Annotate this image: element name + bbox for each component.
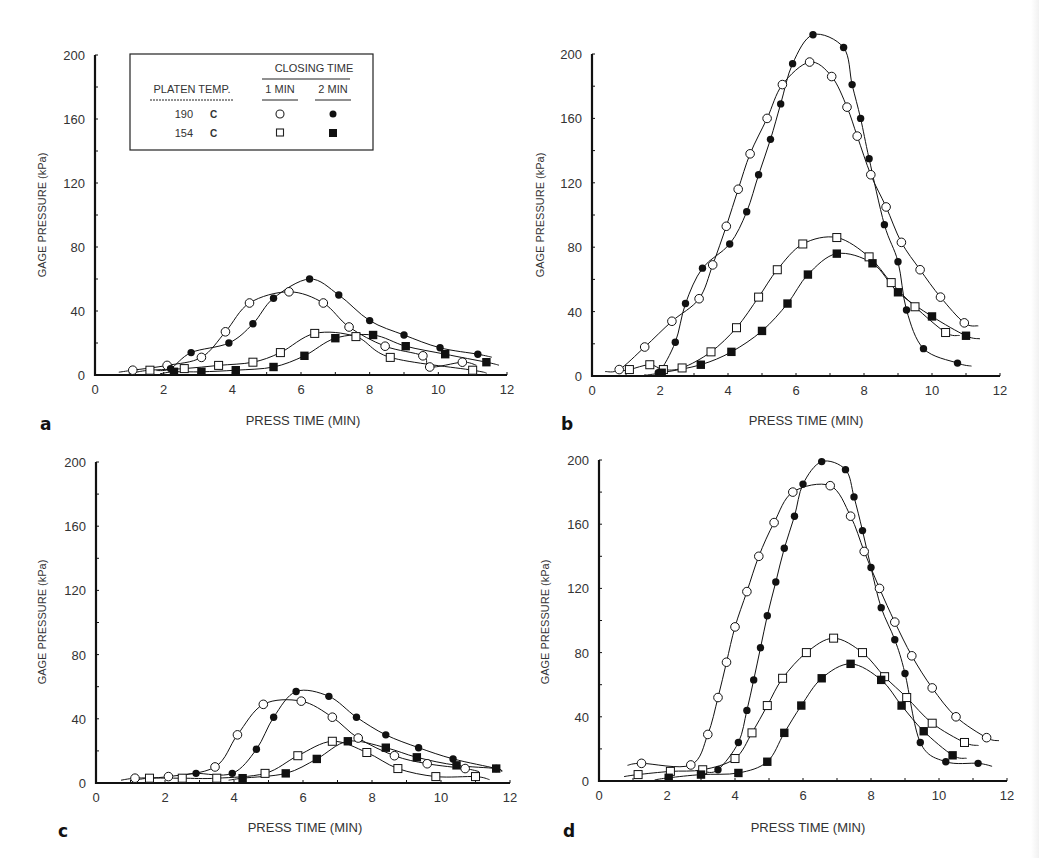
filled-circle-icon [253,746,260,753]
open-circle-icon [734,185,743,194]
filled-circle-icon [187,349,194,356]
x-tick-label: 4 [230,790,237,805]
open-square-icon [748,729,756,737]
open-circle-icon [328,713,337,722]
x-tick-label: 2 [656,383,663,398]
panel-c-axes: 02468101204080120160200 [64,455,517,805]
open-circle-icon [826,481,835,490]
y-tick-label: 0 [79,776,86,791]
x-tick-label: 12 [993,383,1007,398]
open-square-icon [472,773,480,781]
x-tick-label: 8 [366,382,373,397]
legend-row-190-unit: C [210,109,217,120]
open-circle-icon [695,294,704,303]
open-square-icon [178,774,186,782]
x-tick-label: 6 [297,382,304,397]
open-circle-icon [458,358,467,367]
open-square-icon [961,738,969,746]
open-square-icon [733,324,741,332]
x-tick-label: 12 [503,790,517,805]
filled-circle-icon [682,300,689,307]
filled-square-icon [369,331,377,339]
open-circle-icon [211,763,220,772]
filled-circle-icon [840,44,847,51]
open-square-icon [469,366,477,374]
filled-circle-icon [942,758,949,765]
open-circle-icon [297,697,306,706]
open-circle-icon [846,512,855,521]
open-square-icon [261,769,269,777]
x-tick-label: 6 [799,788,806,803]
filled-circle-icon [881,221,888,228]
filled-circle-icon [917,739,924,746]
open-circle-icon [285,288,294,297]
open-square-icon [707,348,715,356]
filled-circle-icon [743,208,750,215]
y-tick-label: 120 [567,581,589,596]
filled-circle-icon [894,258,901,265]
filled-square-icon [697,361,705,369]
panel-c-y-axis-label: GAGE PRESSURE (kPa) [36,560,48,685]
filled-square-icon [897,701,905,709]
open-square-icon [146,366,154,374]
filled-circle-icon [699,264,706,271]
filled-circle-icon [842,466,849,473]
filled-square-icon [797,701,805,709]
legend-row-154-temp: 154 [175,127,193,139]
open-circle-icon [259,700,268,709]
filled-square-icon [727,348,735,356]
open-square-icon [352,333,360,341]
filled-circle-icon [764,612,771,619]
y-tick-label: 80 [575,646,589,661]
filled-square-icon [482,358,490,366]
open-circle-icon [615,365,624,374]
open-circle-icon [882,203,891,212]
panel-d: 02468101204080120160200 GAGE PRESSURE (k… [539,453,1014,841]
filled-circle-icon [857,115,864,122]
y-tick-label: 40 [575,710,589,725]
fitted-curve-open-circle [605,62,978,372]
panel-a-x-axis-label: PRESS TIME (MIN) [246,413,361,428]
fitted-curve-open-circle [628,484,1000,767]
scan-edge-strip [1031,0,1039,858]
x-tick-label: 10 [434,790,448,805]
open-circle-icon [722,658,731,667]
open-circle-icon [233,731,242,740]
x-tick-label: 4 [229,382,236,397]
x-tick-label: 4 [731,788,738,803]
panel-d-markers [634,458,991,782]
open-square-icon [887,279,895,287]
open-square-icon [859,649,867,657]
open-square-icon [903,694,911,702]
open-square-icon [928,719,936,727]
open-circle-icon [952,713,961,722]
filled-square-icon [402,342,410,350]
x-tick-label: 2 [160,382,167,397]
panel-a-letter: a [40,414,51,434]
open-square-icon [911,303,919,311]
filled-circle-icon [755,171,762,178]
open-square-icon [328,737,336,745]
open-circle-icon [390,751,399,760]
open-circle-icon [354,734,363,743]
panel-a-markers [128,275,490,376]
filled-square-icon [665,774,673,782]
open-circle-icon [423,759,432,768]
filled-square-icon [846,660,854,668]
panel-b-axes: 02468101204080120160200 [560,47,1007,398]
filled-square-icon [329,129,337,137]
open-circle-icon [640,343,649,352]
filled-circle-icon [325,693,332,700]
filled-square-icon [441,350,449,358]
x-tick-label: 2 [663,788,670,803]
open-circle-icon [276,110,284,118]
y-tick-label: 160 [567,517,589,532]
filled-circle-icon [901,670,908,677]
open-circle-icon [853,132,862,141]
open-circle-icon [197,353,206,362]
legend-row-190-temp: 190 [175,108,193,120]
open-square-icon [755,293,763,301]
y-tick-label: 120 [63,176,85,191]
open-circle-icon [419,352,428,361]
filled-circle-icon [225,339,232,346]
